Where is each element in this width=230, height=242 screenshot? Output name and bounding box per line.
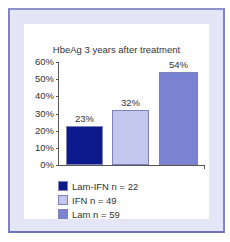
bar [66,126,103,165]
bar [112,110,149,165]
bar [159,72,198,165]
y-tick-label: 50% [30,73,54,84]
y-tick-label: 10% [30,142,54,153]
y-tick-label: 60% [30,56,54,67]
y-tick-label: 40% [30,90,54,101]
y-tick-mark [56,79,59,80]
legend-swatch [58,181,68,191]
legend: Lam-IFN n = 22 IFN n = 49 Lam n = 59 [58,179,138,221]
legend-label: IFN n = 49 [72,195,117,206]
y-tick-mark [56,114,59,115]
legend-swatch [58,209,68,219]
y-tick-label: 30% [30,108,54,119]
y-tick-mark [56,96,59,97]
y-tick-mark [56,165,59,166]
chart-title: HbeAg 3 years after treatment [24,44,209,55]
chart-frame: HbeAg 3 years after treatment 60%50%40%3… [8,8,225,233]
y-tick-label: 20% [30,125,54,136]
y-tick-mark [56,131,59,132]
legend-label: Lam-IFN n = 22 [72,181,138,192]
legend-label: Lam n = 59 [72,209,120,220]
x-axis-end-tick [204,165,205,169]
bar-value-label: 32% [111,97,151,108]
y-tick-mark [56,148,59,149]
y-tick-mark [56,62,59,63]
legend-item-lam: Lam n = 59 [58,207,138,221]
bar-value-label: 23% [65,113,105,124]
legend-item-lam-ifn: Lam-IFN n = 22 [58,179,138,193]
bar-value-label: 54% [159,59,199,70]
legend-item-ifn: IFN n = 49 [58,193,138,207]
chart-panel: HbeAg 3 years after treatment 60%50%40%3… [24,24,209,219]
legend-swatch [58,195,68,205]
x-axis [58,165,205,166]
y-tick-label: 0% [30,159,54,170]
